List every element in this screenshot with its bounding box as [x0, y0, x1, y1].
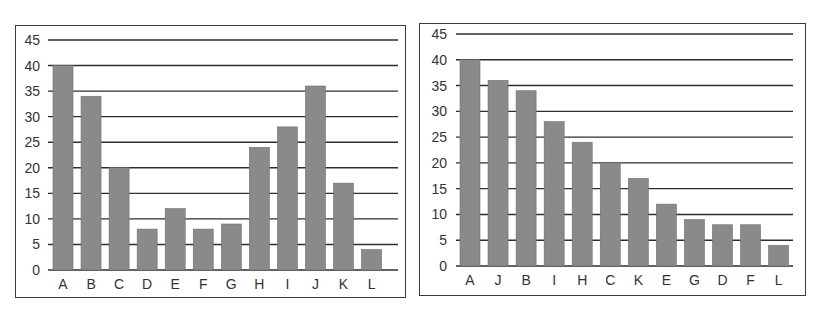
bar-F — [741, 225, 761, 266]
left-chart: 051015202530354045ABCDEFGHIJKL — [24, 32, 398, 292]
x-tick-label: G — [689, 272, 700, 288]
y-tick-label: 20 — [24, 160, 40, 176]
bar-J — [488, 80, 508, 266]
x-tick-label: J — [312, 276, 319, 292]
y-tick-label: 45 — [24, 32, 40, 48]
bar-D — [712, 225, 732, 266]
y-tick-label: 35 — [431, 78, 447, 94]
y-tick-label: 0 — [32, 262, 40, 278]
y-tick-label: 20 — [431, 155, 447, 171]
y-tick-label: 10 — [24, 211, 40, 227]
bar-G — [684, 220, 704, 266]
y-tick-label: 10 — [431, 206, 447, 222]
y-tick-label: 0 — [439, 258, 447, 274]
x-tick-label: I — [552, 272, 556, 288]
y-tick-label: 15 — [24, 185, 40, 201]
y-tick-label: 40 — [24, 58, 40, 74]
x-tick-label: D — [142, 276, 152, 292]
bar-C — [600, 163, 620, 266]
x-tick-label: F — [199, 276, 208, 292]
bar-G — [221, 224, 241, 270]
y-tick-label: 15 — [431, 181, 447, 197]
bar-C — [109, 168, 129, 270]
x-tick-label: K — [634, 272, 644, 288]
y-tick-label: 5 — [32, 236, 40, 252]
bar-E — [656, 204, 676, 266]
x-tick-label: A — [58, 276, 68, 292]
x-tick-label: K — [339, 276, 349, 292]
y-tick-label: 30 — [24, 109, 40, 125]
x-tick-label: F — [746, 272, 755, 288]
bar-A — [53, 66, 73, 270]
bar-H — [572, 142, 592, 266]
y-tick-label: 45 — [431, 26, 447, 42]
x-tick-label: B — [86, 276, 95, 292]
bar-L — [362, 250, 382, 270]
bar-K — [628, 178, 648, 266]
y-tick-label: 25 — [431, 129, 447, 145]
x-tick-label: H — [254, 276, 264, 292]
bar-D — [137, 229, 157, 270]
bar-A — [460, 60, 480, 266]
y-tick-label: 40 — [431, 52, 447, 68]
x-tick-label: C — [605, 272, 615, 288]
x-tick-label: I — [285, 276, 289, 292]
bar-F — [193, 229, 213, 270]
bar-J — [305, 86, 325, 270]
bar-E — [165, 209, 185, 270]
y-tick-label: 25 — [24, 134, 40, 150]
y-tick-label: 5 — [439, 232, 447, 248]
x-tick-label: L — [775, 272, 783, 288]
right-chart: 051015202530354045AJBIHCKEGDFL — [431, 26, 793, 288]
bar-I — [544, 122, 564, 266]
x-tick-label: E — [662, 272, 671, 288]
bar-H — [249, 147, 269, 270]
bar-B — [81, 96, 101, 270]
x-tick-label: G — [226, 276, 237, 292]
bar-B — [516, 91, 536, 266]
bar-I — [277, 127, 297, 270]
bar-L — [769, 245, 789, 266]
x-tick-label: A — [465, 272, 475, 288]
x-tick-label: E — [171, 276, 180, 292]
y-tick-label: 35 — [24, 83, 40, 99]
x-tick-label: H — [577, 272, 587, 288]
x-tick-label: D — [717, 272, 727, 288]
x-tick-label: L — [368, 276, 376, 292]
y-tick-label: 30 — [431, 103, 447, 119]
x-tick-label: B — [521, 272, 530, 288]
bar-K — [334, 183, 354, 270]
bar-charts: 051015202530354045ABCDEFGHIJKL0510152025… — [0, 0, 823, 314]
x-tick-label: C — [114, 276, 124, 292]
x-tick-label: J — [495, 272, 502, 288]
